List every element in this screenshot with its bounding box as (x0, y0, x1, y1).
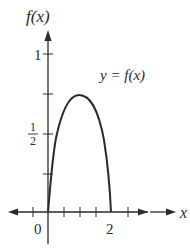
y-tick-label-half-denominator: 2 (30, 134, 36, 148)
x-axis-label: x (179, 204, 187, 221)
y-tick-label-1: 1 (34, 47, 42, 63)
x-axis-left-arrow-icon (8, 209, 18, 216)
y-axis-arrow-icon (45, 30, 52, 41)
x-axis-right-arrow-icon (138, 209, 148, 216)
y-tick-label-half-numerator: 1 (30, 120, 36, 134)
function-curve (48, 95, 111, 212)
origin-label: 0 (34, 221, 42, 237)
y-axis-label: f(x) (26, 7, 50, 26)
curve-label: y = f(x) (98, 67, 145, 84)
x-axis-far-arrow-icon (166, 209, 176, 216)
x-tick-label-2: 2 (106, 221, 114, 237)
function-graph: f(x) x y = f(x) 1 1 2 0 2 (0, 0, 190, 251)
